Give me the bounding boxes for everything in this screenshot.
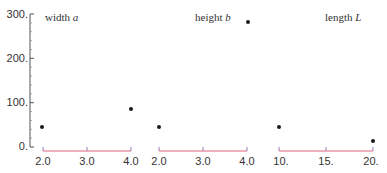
x-tick-label: 2.0 (35, 155, 50, 167)
x-tick-label: 10. (273, 155, 288, 167)
data-point (129, 107, 133, 111)
chart: 300. 200. 100. 0. width a 2.0 3.0 4.0 he… (0, 0, 387, 173)
y-axis: 300. 200. 100. 0. (7, 8, 34, 152)
x-tick-label: 2.0 (151, 155, 166, 167)
y-tick-label-100: 100. (7, 96, 28, 108)
data-point (246, 20, 250, 24)
x-tick-label: 15. (318, 155, 333, 167)
data-point (157, 125, 161, 129)
panel-title-length: length L (325, 11, 361, 23)
panel-length-l: length L 10. 15. 20. (273, 11, 378, 167)
x-tick-label: 3.0 (195, 155, 210, 167)
panel-width-a: width a 2.0 3.0 4.0 (35, 11, 138, 167)
panel-title-height: height b (195, 11, 231, 23)
panel-height-b: height b 2.0 3.0 4.0 (151, 11, 254, 167)
x-tick-label: 4.0 (123, 155, 138, 167)
y-tick-label-0: 0. (19, 140, 28, 152)
panel-title-width: width a (45, 11, 79, 23)
data-point (371, 139, 375, 143)
y-tick-label-200: 200. (7, 52, 28, 64)
data-point (277, 125, 281, 129)
y-tick-label-300: 300. (7, 8, 28, 20)
x-tick-label: 4.0 (239, 155, 254, 167)
data-point (40, 125, 44, 129)
x-tick-label: 20. (363, 155, 378, 167)
x-tick-label: 3.0 (79, 155, 94, 167)
